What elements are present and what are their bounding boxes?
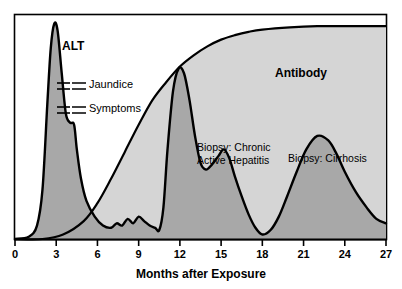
x-tick-label-0: 0 bbox=[12, 248, 18, 260]
hepatitis-serology-chart: 0 3 6 9 12 15 18 21 24 27 Months after E… bbox=[0, 0, 402, 289]
x-tick-label-18: 18 bbox=[256, 248, 268, 260]
chart-figure: 0 3 6 9 12 15 18 21 24 27 Months after E… bbox=[0, 0, 402, 289]
x-tick-label-12: 12 bbox=[174, 248, 186, 260]
biopsy-chronic-label-line2: Active Hepatitis bbox=[197, 154, 269, 166]
x-tick-label-3: 3 bbox=[53, 248, 59, 260]
biopsy-cirrhosis-label: Biopsy: Cirrhosis bbox=[288, 152, 367, 164]
symptoms-marker-label: Symptoms bbox=[89, 102, 141, 114]
x-axis-title: Months after Exposure bbox=[136, 267, 266, 281]
antibody-series-label: Antibody bbox=[275, 66, 327, 80]
x-tick-label-27: 27 bbox=[380, 248, 392, 260]
x-tick-label-21: 21 bbox=[297, 248, 309, 260]
jaundice-marker-label: Jaundice bbox=[89, 78, 133, 90]
alt-series-label: ALT bbox=[62, 39, 85, 53]
x-tick-label-6: 6 bbox=[94, 248, 100, 260]
x-tick-label-9: 9 bbox=[136, 248, 142, 260]
biopsy-chronic-label-line1: Biopsy: Chronic bbox=[197, 141, 271, 153]
x-tick-label-15: 15 bbox=[215, 248, 227, 260]
x-tick-label-24: 24 bbox=[339, 248, 352, 260]
